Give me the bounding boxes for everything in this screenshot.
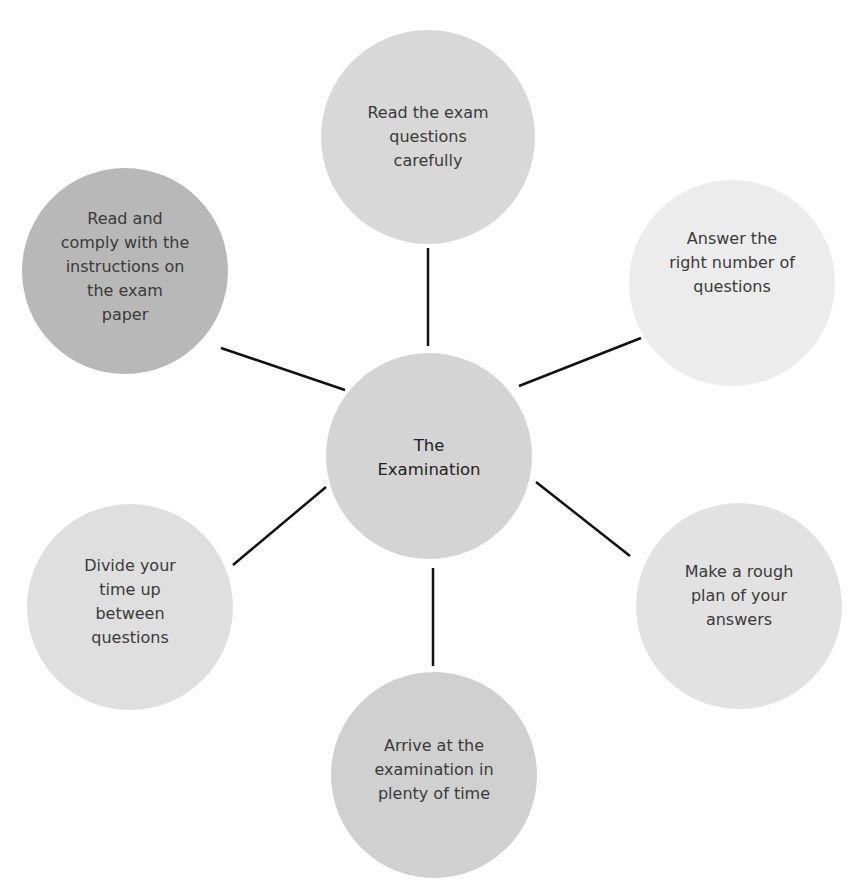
node-top-left-label: Read and comply with the instructions on…	[61, 207, 190, 327]
node-top: Read the exam questions carefully	[321, 30, 535, 244]
connector-bottom-left	[233, 487, 326, 565]
node-bottom-left: Divide your time up between questions	[27, 504, 233, 710]
connector-bottom-right	[536, 482, 630, 556]
node-bottom-right-label: Make a rough plan of your answers	[685, 560, 794, 632]
node-top-left: Read and comply with the instructions on…	[22, 168, 228, 374]
node-top-right-label: Answer the right number of questions	[669, 227, 795, 299]
connector-top-right	[519, 338, 641, 386]
node-bottom: Arrive at the examination in plenty of t…	[331, 672, 537, 878]
node-bottom-label: Arrive at the examination in plenty of t…	[374, 734, 493, 806]
center-node-label: The Examination	[377, 434, 480, 482]
node-top-label: Read the exam questions carefully	[367, 101, 488, 173]
node-bottom-right: Make a rough plan of your answers	[636, 503, 842, 709]
center-node: The Examination	[326, 353, 532, 559]
connector-top-left	[221, 348, 345, 390]
node-top-right: Answer the right number of questions	[629, 180, 835, 386]
node-bottom-left-label: Divide your time up between questions	[84, 554, 176, 650]
